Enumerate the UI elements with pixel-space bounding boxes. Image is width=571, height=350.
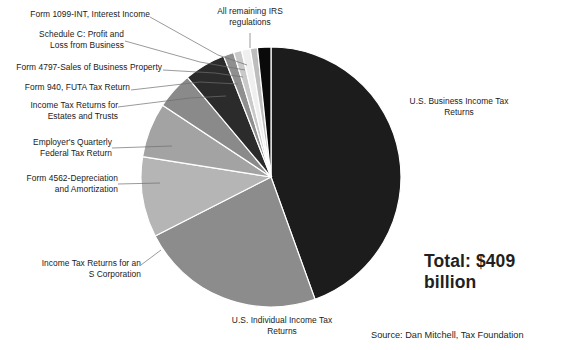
label-form-1099-int: Form 1099-INT, Interest Income [2, 9, 150, 20]
leader-line-s-corporation [141, 250, 161, 265]
label-all-remaining-irs: All remaining IRS regulations [191, 6, 309, 27]
pie-slices-group [141, 47, 401, 307]
label-form-4562: Form 4562-Depreciation and Amortization [2, 173, 118, 194]
label-form-4797: Form 4797-Sales of Business Property [2, 62, 162, 73]
label-business-income-tax-returns: U.S. Business Income Tax Returns [398, 96, 520, 117]
label-individual-income-tax-returns: U.S. Individual Income Tax Returns [218, 315, 346, 336]
label-estates-trusts: Income Tax Returns for Estates and Trust… [2, 100, 118, 121]
label-form-940: Form 940, FUTA Tax Return [2, 82, 130, 93]
label-s-corporation: Income Tax Returns for an S Corporation [2, 258, 141, 279]
label-schedule-c: Schedule C: Profit and Loss from Busines… [2, 29, 124, 50]
label-employers-quarterly: Employer's Quarterly Federal Tax Return [2, 137, 112, 158]
total-annotation: Total: $409 billion [424, 251, 554, 293]
source-annotation: Source: Dan Mitchell, Tax Foundation [371, 330, 569, 340]
pie-chart-figure: Form 1099-INT, Interest Income Schedule … [0, 0, 571, 350]
